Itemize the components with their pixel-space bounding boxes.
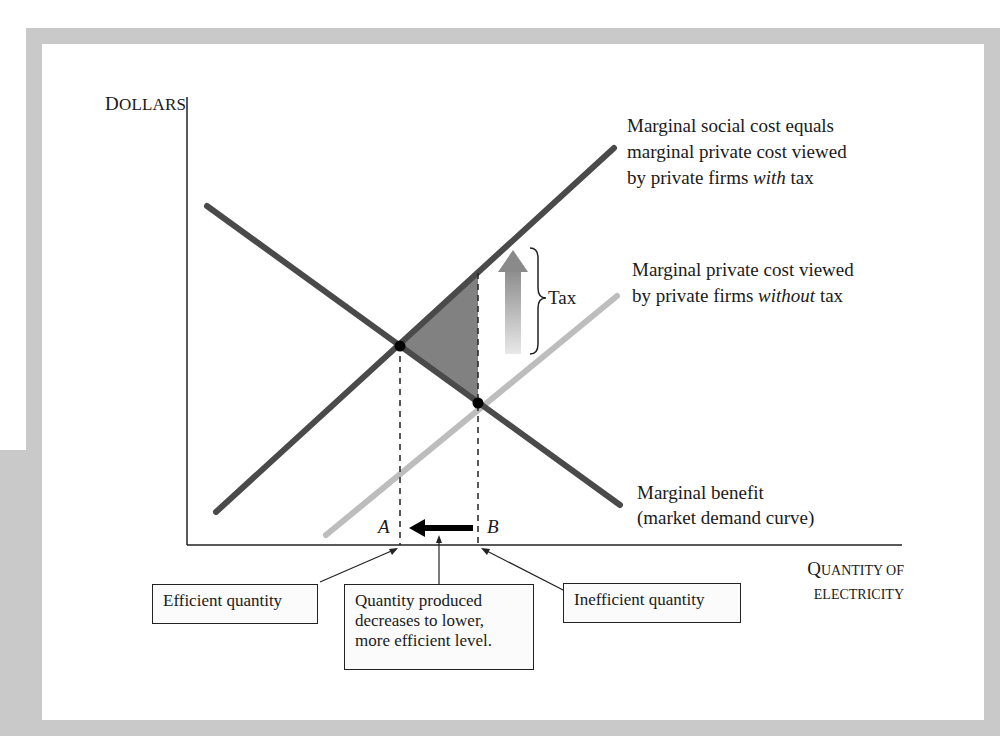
mpc-label-line1: Marginal private cost viewed <box>632 257 854 283</box>
tax-arrow-icon <box>498 250 528 354</box>
point-b-label: B <box>487 516 499 538</box>
efficient-quantity-callout: Efficient quantity <box>152 584 318 624</box>
quantity-decrease-callout: Quantity produced decreases to lower, mo… <box>344 584 534 670</box>
mpc-label-line2-a: by private firms <box>632 285 758 306</box>
leader-efficient-arrowhead <box>389 548 398 555</box>
mb-label: Marginal benefit (market demand curve) <box>637 480 814 530</box>
x-axis-label-initial: Q <box>807 558 821 579</box>
mb-label-line2: (market demand curve) <box>637 505 814 530</box>
msc-label-line3-emphasis: with <box>753 167 786 188</box>
tax-brace-icon <box>530 248 546 354</box>
inefficient-quantity-text: Inefficient quantity <box>574 590 704 609</box>
decrease-text-line3: more efficient level. <box>355 631 523 651</box>
point-a-label: A <box>378 516 390 538</box>
x-axis-label-line1: QUANTITY OF <box>770 557 904 583</box>
efficient-point-dot <box>395 341 406 352</box>
y-axis-label: DOLLARS <box>105 93 186 115</box>
y-axis-label-initial: D <box>105 93 119 114</box>
leader-inefficient-arrowhead <box>481 548 490 555</box>
y-axis-label-rest: OLLARS <box>119 95 186 114</box>
msc-label-line3-b: tax <box>786 167 814 188</box>
x-axis-label: QUANTITY OF ELECTRICITY <box>770 557 904 607</box>
inefficient-point-dot <box>473 398 484 409</box>
mpc-label-line2-b: tax <box>815 285 843 306</box>
leader-efficient <box>320 549 396 582</box>
decrease-text-line1: Quantity produced <box>355 591 523 611</box>
decrease-text-line2: decreases to lower, <box>355 611 523 631</box>
msc-label-line1: Marginal social cost equals <box>627 113 847 139</box>
msc-label-line2: marginal private cost viewed <box>627 139 847 165</box>
msc-label-line3: by private firms with tax <box>627 165 847 191</box>
msc-label: Marginal social cost equals marginal pri… <box>627 113 847 191</box>
leader-decrease-arrowhead <box>436 535 442 543</box>
x-axis-label-line2: ELECTRICITY <box>770 583 904 607</box>
mpc-label: Marginal private cost viewed by private … <box>632 257 854 309</box>
shift-left-arrow-icon <box>409 519 473 537</box>
inefficient-quantity-callout: Inefficient quantity <box>563 583 741 623</box>
tax-label: Tax <box>548 288 576 308</box>
msc-label-line3-a: by private firms <box>627 167 753 188</box>
deadweight-loss-area <box>400 273 478 403</box>
efficient-quantity-text: Efficient quantity <box>163 591 282 610</box>
mpc-label-line2: by private firms without tax <box>632 283 854 309</box>
mpc-label-line2-emphasis: without <box>758 285 815 306</box>
mb-label-line1: Marginal benefit <box>637 480 814 505</box>
x-axis-label-rest: UANTITY OF <box>821 563 904 578</box>
